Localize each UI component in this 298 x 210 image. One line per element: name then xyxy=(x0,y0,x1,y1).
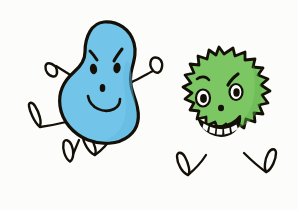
blue-blob-left-hand-icon xyxy=(45,63,57,76)
green-virus-left-pupil xyxy=(200,94,207,103)
blue-blob-nose xyxy=(100,84,106,92)
green-virus-nose xyxy=(218,105,224,111)
germ-characters-drawing xyxy=(0,0,298,210)
illustration-canvas xyxy=(0,0,298,210)
blue-blob-right-hand-icon xyxy=(150,57,162,72)
tooth-3 xyxy=(217,129,223,135)
green-virus-right-pupil xyxy=(233,88,239,96)
